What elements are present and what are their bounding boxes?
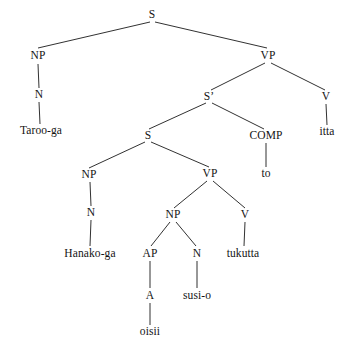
tree-node-vp-2: VP	[202, 168, 217, 180]
tree-node-vp-1: VP	[260, 50, 275, 62]
tree-node-np-1: NP	[30, 50, 45, 62]
tree-branch-v-1-to-itta	[326, 104, 327, 125]
tree-branch-np-3-to-n-3	[176, 222, 196, 246]
tree-branch-sbar-to-s-embedded	[149, 103, 206, 129]
tree-node-comp: COMP	[249, 130, 282, 142]
syntax-tree-figure: SNPVPNS’VTaroo-gaSCOMPittaNPVPtoNNPVHana…	[0, 0, 345, 354]
tree-leaf-susi-o: susi-o	[183, 290, 211, 302]
tree-branch-n-1-to-taroo-ga	[39, 102, 40, 124]
tree-node-a-1: A	[146, 290, 154, 302]
tree-branch-vp-1-to-v-1	[271, 63, 325, 90]
tree-node-v-1: V	[322, 91, 330, 103]
tree-branch-vp-2-to-v-2	[213, 181, 245, 208]
tree-branch-vp-2-to-np-3	[174, 181, 207, 208]
tree-branch-s-embedded-to-vp-2	[151, 142, 209, 167]
tree-node-n-1: N	[35, 89, 43, 101]
tree-node-n-2: N	[87, 207, 95, 219]
tree-branch-v-2-to-tukutta	[244, 222, 245, 246]
tree-leaf-oisii: oisii	[140, 326, 160, 338]
tree-branch-sbar-to-comp	[212, 103, 264, 129]
tree-node-n-3: N	[193, 248, 201, 260]
tree-branch-np-1-to-n-1	[38, 64, 39, 88]
tree-node-np-2: NP	[81, 169, 96, 181]
tree-branch-np-3-to-ap	[151, 222, 170, 246]
tree-node-v-2: V	[241, 209, 249, 221]
tree-node-np-3: NP	[165, 209, 180, 221]
tree-node-ap: AP	[142, 248, 157, 260]
tree-branch-s-embedded-to-np-2	[89, 142, 145, 168]
tree-leaf-itta: itta	[319, 126, 334, 138]
tree-leaf-hanako-ga: Hanako-ga	[64, 248, 115, 260]
tree-node-sbar: S’	[204, 91, 215, 103]
tree-branch-vp-1-to-sbar	[211, 63, 265, 90]
tree-node-s-root: S	[149, 9, 156, 21]
tree-leaf-to: to	[261, 168, 270, 180]
tree-branch-np-2-to-n-2	[90, 182, 91, 206]
tree-node-s-embedded: S	[145, 130, 152, 142]
tree-branch-s-root-to-vp-1	[155, 22, 267, 48]
tree-leaf-taroo-ga: Taroo-ga	[20, 125, 62, 137]
tree-leaf-tukutta: tukutta	[227, 248, 260, 260]
tree-edges-layer	[0, 0, 345, 354]
tree-branch-s-root-to-np-1	[38, 22, 150, 48]
tree-branch-n-2-to-hanako-ga	[90, 220, 91, 246]
